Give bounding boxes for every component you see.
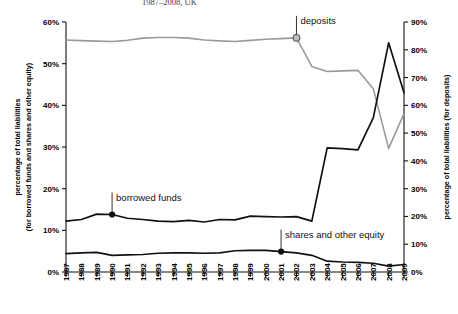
right-axis-tick-label: 20% bbox=[411, 212, 427, 221]
x-axis-year-label: 2005 bbox=[339, 263, 348, 281]
left-axis-tick-label: 40% bbox=[43, 101, 59, 110]
x-axis-year-label: 2004 bbox=[323, 263, 332, 281]
x-axis-year-label: 2001 bbox=[277, 263, 286, 281]
x-axis-year-label: 1988 bbox=[77, 263, 86, 281]
right-axis-tick-label: 30% bbox=[411, 185, 427, 194]
right-axis-tick-label: 60% bbox=[411, 101, 427, 110]
right-axis-tick-label: 70% bbox=[411, 74, 427, 83]
right-axis-tick-label: 50% bbox=[411, 129, 427, 138]
x-axis-year-label: 1997 bbox=[216, 263, 225, 281]
right-axis-tick-label: 40% bbox=[411, 157, 427, 166]
left-axis-tick-label: 0% bbox=[47, 268, 59, 277]
chart-container: 1987–2008, UK 0%10%20%30%40%50%60%percen… bbox=[0, 0, 458, 314]
x-axis-year-label: 2007 bbox=[369, 263, 378, 281]
x-axis-year-label: 1994 bbox=[170, 263, 179, 281]
line-chart-plot: 0%10%20%30%40%50%60%percentage of total … bbox=[0, 0, 458, 314]
annotation-label: deposits bbox=[300, 15, 336, 26]
annotation-marker-filled bbox=[278, 248, 284, 254]
left-axis-title-sub: (for borrowed funds and shares and other… bbox=[24, 62, 33, 231]
right-axis-tick-label: 0% bbox=[411, 268, 423, 277]
annotation-marker-open bbox=[293, 34, 300, 41]
x-axis-year-label: 1989 bbox=[93, 263, 102, 281]
right-axis-tick-label: 10% bbox=[411, 240, 427, 249]
annotation-label: borrowed funds bbox=[116, 192, 182, 203]
x-axis-year-label: 1991 bbox=[123, 263, 132, 281]
right-axis-tick-label: 90% bbox=[411, 18, 427, 27]
x-axis-year-label: 1993 bbox=[154, 263, 163, 281]
left-axis-tick-label: 50% bbox=[43, 60, 59, 69]
left-axis-tick-label: 20% bbox=[43, 185, 59, 194]
x-axis-year-label: 2006 bbox=[354, 263, 363, 281]
right-axis-tick-label: 80% bbox=[411, 46, 427, 55]
annotation-label: shares and other equity bbox=[285, 229, 385, 240]
annotation-marker-filled bbox=[109, 211, 115, 217]
x-axis-year-label: 2003 bbox=[308, 263, 317, 281]
x-axis-year-label: 1996 bbox=[200, 263, 209, 281]
left-axis-title: percentage of total liabilities bbox=[13, 98, 22, 195]
left-axis-tick-label: 60% bbox=[43, 18, 59, 27]
x-axis-year-label: 1987 bbox=[62, 263, 71, 281]
x-axis-year-label: 1995 bbox=[185, 263, 194, 281]
x-axis-year-label: 1992 bbox=[139, 263, 148, 281]
series-line-deposits bbox=[66, 38, 404, 149]
x-axis-year-label: 1990 bbox=[108, 263, 117, 281]
right-axis-title: percentage of total liabilities (for dep… bbox=[442, 74, 451, 220]
x-axis-year-label: 1998 bbox=[231, 263, 240, 281]
left-axis-tick-label: 10% bbox=[43, 226, 59, 235]
x-axis-year-label: 2000 bbox=[262, 263, 271, 281]
x-axis-year-label: 1999 bbox=[246, 263, 255, 281]
left-axis-tick-label: 30% bbox=[43, 143, 59, 152]
x-axis-year-label: 2002 bbox=[292, 263, 301, 281]
